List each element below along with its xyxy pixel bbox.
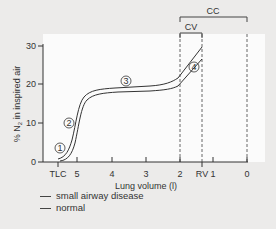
- y-ticks: [38, 46, 43, 162]
- y-tick-0: 0: [31, 157, 36, 167]
- x-tick-3: 3: [143, 169, 148, 179]
- cv-label: CV: [185, 22, 198, 32]
- legend-label: small airway disease: [56, 190, 144, 202]
- plot-area: [43, 34, 265, 162]
- legend-line-icon: [40, 196, 51, 197]
- x-tick-rv: RV: [196, 169, 208, 179]
- y-tick-20: 20: [26, 79, 36, 89]
- x-tick-tlc: TLC: [49, 169, 67, 179]
- x-tick-2: 2: [177, 169, 182, 179]
- x-tick-1: 1: [210, 169, 215, 179]
- y-tick-10: 10: [26, 118, 36, 128]
- x-tick-5: 5: [74, 169, 79, 179]
- svg-text:1: 1: [57, 143, 62, 153]
- x-tick-4: 4: [109, 169, 114, 179]
- y-axis-label: % N2 in inspired air: [12, 66, 23, 142]
- legend-item-small-airway-disease: small airway disease: [40, 190, 144, 202]
- legend-item-normal: normal: [40, 202, 144, 214]
- x-tick-0: 0: [244, 169, 249, 179]
- legend-line-icon: [40, 208, 51, 209]
- svg-text:4: 4: [191, 62, 196, 72]
- y-tick-30: 30: [26, 41, 36, 51]
- legend-label: normal: [56, 202, 85, 214]
- svg-text:3: 3: [123, 76, 128, 86]
- legend: small airway disease normal: [40, 190, 144, 214]
- svg-text:2: 2: [66, 118, 71, 128]
- cc-label: CC: [207, 6, 220, 16]
